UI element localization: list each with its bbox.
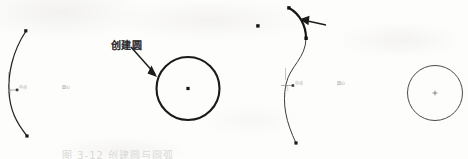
figure-panel-create-circle: 创建圆 120 中点 圆心 (0, 0, 234, 159)
figure-page: 创建圆 120 中点 圆心 创 (0, 0, 468, 159)
figure-caption: 图 3-12 创建圆与圆弧 (62, 150, 302, 159)
arc-center-label-right: 圆心 (337, 81, 345, 86)
arc-endpoint-top-marker (24, 29, 27, 32)
arc-end-point-marker (304, 37, 307, 40)
circle-center-point (186, 87, 189, 90)
reference-point-marker (256, 24, 259, 27)
midpoint-marker (16, 89, 19, 92)
created-arc-segment (289, 8, 306, 38)
arc-radius-label-left: 120 (7, 88, 12, 96)
arc-midpoint-label-right: 中点 (295, 81, 303, 86)
arc-radius-label-right: 120 (284, 84, 289, 92)
arc-start-point-marker (287, 6, 290, 9)
arc-endpoint-bottom-marker (25, 134, 28, 137)
create-circle-drawing (0, 0, 234, 159)
reference-circle-center-cross (433, 91, 438, 96)
arc-midpoint-label-left: 中点 (19, 85, 27, 90)
midpoint-marker (292, 84, 295, 87)
arc-base-curve (284, 8, 306, 143)
arc-curve (9, 31, 27, 136)
create-arc-drawing (234, 0, 468, 159)
arc-center-label-left: 圆心 (62, 85, 70, 90)
annotation-create-circle: 创建圆 (111, 40, 142, 51)
arc-tail-point-marker (294, 141, 297, 144)
figure-panel-create-arc: 创建圆弧 120 中点 圆心 (234, 0, 468, 159)
